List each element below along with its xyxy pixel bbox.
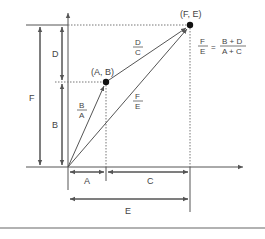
slope-ba: B A xyxy=(77,101,87,120)
vector-ab-to-fe xyxy=(106,28,186,82)
svg-text:F: F xyxy=(135,92,140,101)
label-a: A xyxy=(84,176,90,186)
label-b: B xyxy=(52,120,58,130)
svg-text:E: E xyxy=(135,102,140,111)
svg-text:D: D xyxy=(135,38,141,47)
svg-text:B + D: B + D xyxy=(222,37,242,46)
vector-addition-diagram: (A, B) (F, E) D B F A C E B A D C F E F … xyxy=(0,0,265,239)
label-c: C xyxy=(147,176,154,186)
svg-text:A + C: A + C xyxy=(222,47,242,56)
svg-text:A: A xyxy=(79,111,85,120)
svg-text:B: B xyxy=(79,101,84,110)
label-d: D xyxy=(52,49,59,59)
point-ab-label: (A, B) xyxy=(91,67,114,77)
slope-equation: F E = B + D A + C xyxy=(198,37,246,56)
label-e: E xyxy=(125,206,131,216)
vector-origin-to-fe xyxy=(68,29,187,167)
slope-fe: F E xyxy=(133,92,143,111)
point-ab xyxy=(103,79,109,85)
svg-text:E: E xyxy=(200,47,205,56)
svg-text:=: = xyxy=(211,43,216,52)
svg-text:F: F xyxy=(200,37,205,46)
point-fe-label: (F, E) xyxy=(180,9,202,19)
label-f: F xyxy=(29,93,35,103)
point-fe xyxy=(187,22,193,28)
slope-dc: D C xyxy=(133,38,143,57)
svg-text:C: C xyxy=(135,48,141,57)
vector-origin-to-ab xyxy=(68,86,104,167)
